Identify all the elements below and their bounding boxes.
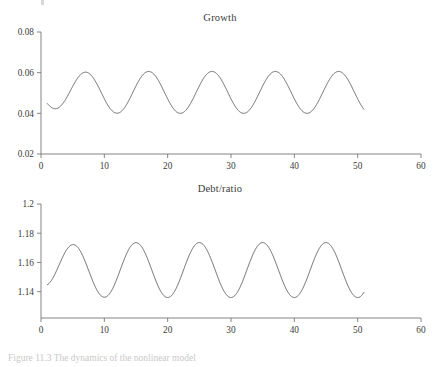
x-tick-label: 40 xyxy=(290,161,300,171)
y-tick-label: 0.08 xyxy=(18,27,35,37)
y-tick-label: 0.02 xyxy=(18,149,35,159)
y-tick-label: 0.06 xyxy=(18,68,35,78)
x-tick-label: 40 xyxy=(290,325,300,335)
plot-area-debt: 1.141.161.181.20102030405060 xyxy=(0,182,440,342)
x-tick-label: 60 xyxy=(416,161,426,171)
x-tick-label: 0 xyxy=(39,325,44,335)
x-tick-label: 60 xyxy=(416,325,426,335)
x-tick-label: 30 xyxy=(226,325,236,335)
data-line-growth xyxy=(47,71,364,113)
x-tick-label: 50 xyxy=(353,161,363,171)
y-tick-label: 1.18 xyxy=(18,229,35,239)
chart-panel-growth: Growth 0.020.040.060.080102030405060 xyxy=(0,4,440,182)
data-line-debt-ratio xyxy=(47,243,364,298)
y-tick-label: 0.04 xyxy=(18,109,35,119)
figure-container: Growth 0.020.040.060.080102030405060 Deb… xyxy=(0,0,440,367)
y-tick-label: 1.16 xyxy=(18,258,35,268)
x-tick-label: 50 xyxy=(353,325,363,335)
chart-panel-debt: Debt/ratio 1.141.161.181.20102030405060 xyxy=(0,182,440,342)
figure-caption: Figure 11.3 The dynamics of the nonlinea… xyxy=(8,353,428,363)
x-tick-label: 10 xyxy=(100,161,110,171)
x-tick-label: 0 xyxy=(39,161,44,171)
x-tick-label: 20 xyxy=(163,325,173,335)
y-tick-label: 1.2 xyxy=(22,199,34,209)
y-tick-label: 1.14 xyxy=(18,287,35,297)
plot-area-growth: 0.020.040.060.080102030405060 xyxy=(0,4,440,182)
x-tick-label: 20 xyxy=(163,161,173,171)
x-tick-label: 10 xyxy=(100,325,110,335)
x-tick-label: 30 xyxy=(226,161,236,171)
